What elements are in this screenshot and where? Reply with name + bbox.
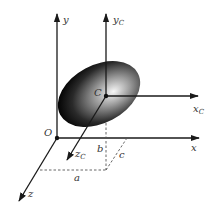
- center-c-point: [104, 94, 108, 98]
- label-offset-a: a: [74, 172, 80, 183]
- label-origin-o: O: [44, 127, 52, 138]
- origin-o-point: [55, 136, 59, 140]
- label-global-z: z: [27, 188, 34, 199]
- label-offset-c: c: [119, 149, 125, 160]
- label-local-yc: yC: [112, 14, 125, 27]
- label-offset-b: b: [97, 143, 103, 154]
- label-global-y: y: [62, 14, 69, 25]
- global-z-axis: [19, 138, 57, 201]
- label-local-xc: xC: [193, 103, 205, 116]
- label-global-x: x: [191, 142, 197, 153]
- label-center-c: C: [94, 87, 102, 98]
- coordinate-diagram: y x z O C yC xC zC a b c: [0, 0, 212, 213]
- label-local-zc: zC: [74, 148, 86, 161]
